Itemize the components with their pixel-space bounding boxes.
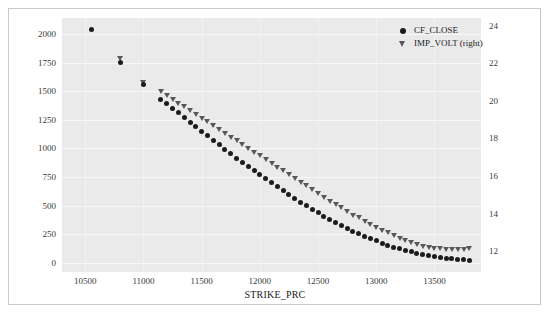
data-point-cf-close xyxy=(327,217,332,222)
y-axis-right-tick-label: 16 xyxy=(489,172,498,181)
x-axis-tick-label: 10500 xyxy=(74,277,97,286)
gridline-horizontal xyxy=(62,234,481,235)
data-point-cf-close xyxy=(252,168,257,173)
data-point-cf-close xyxy=(170,106,175,111)
plot-area xyxy=(62,18,481,272)
data-point-cf-close xyxy=(310,207,315,212)
gridline-vertical xyxy=(202,18,203,272)
data-point-cf-close xyxy=(234,156,239,161)
chart-legend: CF_CLOSE IMP_VOLT (right) xyxy=(398,24,508,50)
data-point-cf-close xyxy=(188,120,193,125)
gridline-vertical xyxy=(434,18,435,272)
data-point-cf-close xyxy=(275,184,280,189)
y-axis-left-tick-label: 1500 xyxy=(38,87,56,96)
x-axis-label: STRIKE_PRC xyxy=(0,289,550,300)
data-point-cf-close xyxy=(193,124,198,129)
data-point-cf-close xyxy=(141,82,146,87)
x-axis-tick-label: 13500 xyxy=(423,277,446,286)
data-point-cf-close xyxy=(333,220,338,225)
data-point-cf-close xyxy=(211,138,216,143)
gridline-vertical xyxy=(376,18,377,272)
data-point-cf-close xyxy=(281,188,286,193)
data-point-cf-close xyxy=(321,214,326,219)
gridline-vertical xyxy=(85,18,86,272)
y-axis-right-tick-label: 14 xyxy=(489,210,498,219)
x-axis-tick-label: 11000 xyxy=(132,277,154,286)
chart-figure: 025050075010001250150017502000 121416182… xyxy=(0,0,550,319)
data-point-cf-close xyxy=(199,129,204,134)
data-point-cf-close xyxy=(176,110,181,115)
data-point-imp-volt xyxy=(466,246,472,251)
data-point-cf-close xyxy=(217,142,222,147)
gridline-horizontal xyxy=(62,63,481,64)
y-axis-left: 025050075010001250150017502000 xyxy=(0,0,56,319)
data-point-cf-close xyxy=(304,203,309,208)
gridline-horizontal xyxy=(62,91,481,92)
data-point-cf-close xyxy=(455,257,460,262)
data-point-cf-close xyxy=(205,133,210,138)
data-point-cf-close xyxy=(414,251,419,256)
data-point-cf-close xyxy=(409,249,414,254)
data-point-cf-close xyxy=(374,238,379,243)
circle-marker-icon xyxy=(398,24,410,37)
data-point-cf-close xyxy=(403,248,408,253)
gridline-vertical xyxy=(260,18,261,272)
triangle-down-marker-icon xyxy=(398,37,410,50)
data-point-cf-close xyxy=(240,160,245,165)
data-point-cf-close xyxy=(444,256,449,261)
y-axis-right-tick-label: 12 xyxy=(489,247,498,256)
legend-item-cf-close: CF_CLOSE xyxy=(398,24,508,37)
data-point-cf-close xyxy=(182,115,187,120)
x-axis-tick-label: 12000 xyxy=(249,277,272,286)
data-point-cf-close xyxy=(467,258,472,263)
y-axis-left-tick-label: 2000 xyxy=(38,30,56,39)
y-axis-right-tick-label: 20 xyxy=(489,97,498,106)
data-point-cf-close xyxy=(362,234,367,239)
gridline-vertical xyxy=(318,18,319,272)
legend-label-cf-close: CF_CLOSE xyxy=(414,25,458,35)
data-point-cf-close xyxy=(461,257,466,262)
data-point-cf-close xyxy=(397,246,402,251)
data-point-cf-close xyxy=(350,229,355,234)
data-point-cf-close xyxy=(432,254,437,259)
legend-item-imp-volt: IMP_VOLT (right) xyxy=(398,37,508,50)
y-axis-left-tick-label: 0 xyxy=(52,259,57,268)
data-point-cf-close xyxy=(222,147,227,152)
y-axis-right-tick-label: 18 xyxy=(489,134,498,143)
x-axis-tick-label: 12500 xyxy=(307,277,330,286)
data-point-cf-close xyxy=(368,236,373,241)
data-point-cf-close xyxy=(316,210,321,215)
data-point-cf-close xyxy=(449,256,454,261)
data-point-cf-close xyxy=(164,101,169,106)
data-point-cf-close xyxy=(391,245,396,250)
data-point-cf-close xyxy=(246,164,251,169)
gridline-horizontal xyxy=(62,263,481,264)
data-point-cf-close xyxy=(339,223,344,228)
data-point-cf-close xyxy=(158,97,163,102)
y-axis-left-tick-label: 1000 xyxy=(38,144,56,153)
y-axis-left-tick-label: 750 xyxy=(43,173,57,182)
gridline-horizontal xyxy=(62,177,481,178)
data-point-cf-close xyxy=(286,192,291,197)
data-point-cf-close xyxy=(385,243,390,248)
gridline-vertical xyxy=(143,18,144,272)
data-point-cf-close xyxy=(438,255,443,260)
x-axis-tick-label: 11500 xyxy=(191,277,213,286)
legend-label-imp-volt: IMP_VOLT (right) xyxy=(414,38,483,48)
data-point-cf-close xyxy=(292,196,297,201)
data-point-cf-close xyxy=(356,231,361,236)
data-point-cf-close xyxy=(89,27,94,32)
data-point-cf-close xyxy=(269,180,274,185)
gridline-horizontal xyxy=(62,120,481,121)
data-point-cf-close xyxy=(345,226,350,231)
data-point-cf-close xyxy=(426,253,431,258)
data-point-cf-close xyxy=(420,252,425,257)
gridline-horizontal xyxy=(62,206,481,207)
y-axis-left-tick-label: 500 xyxy=(43,202,57,211)
y-axis-left-tick-label: 250 xyxy=(43,230,57,239)
y-axis-left-tick-label: 1250 xyxy=(38,116,56,125)
data-point-cf-close xyxy=(298,200,303,205)
y-axis-right-tick-label: 22 xyxy=(489,59,498,68)
data-point-cf-close xyxy=(118,60,123,65)
gridline-horizontal xyxy=(62,148,481,149)
